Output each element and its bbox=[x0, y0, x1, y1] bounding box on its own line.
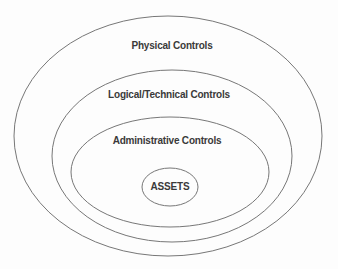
administrative-controls-ellipse bbox=[71, 117, 269, 227]
logical-technical-controls-label: Logical/Technical Controls bbox=[108, 89, 230, 100]
assets-label: ASSETS bbox=[151, 181, 190, 192]
controls-diagram: Physical Controls Logical/Technical Cont… bbox=[0, 0, 338, 269]
physical-controls-label: Physical Controls bbox=[131, 40, 213, 51]
controls-diagram-canvas: Physical Controls Logical/Technical Cont… bbox=[0, 0, 338, 269]
administrative-controls-label: Administrative Controls bbox=[113, 135, 222, 146]
